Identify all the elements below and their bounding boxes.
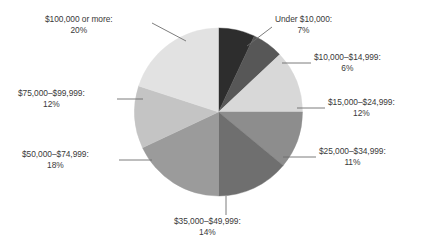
callout-75000-99999: $75,000–$99,999: 12% (18, 88, 85, 110)
callout-percent-10000-14999: 6% (314, 63, 381, 74)
pie-chart-figure: Under $10,000: 7% $10,000–$14,999: 6% $1… (0, 0, 435, 249)
callout-10000-14999: $10,000–$14,999: 6% (314, 52, 381, 74)
callout-category-100000-or-more: $100,000 or more (45, 14, 110, 24)
callout-15000-24999: $15,000–$24,999: 12% (328, 97, 395, 119)
callout-50000-74999: $50,000–$74,999: 18% (22, 149, 89, 171)
leader-line-100000-or-more (152, 23, 186, 41)
callout-category-under-10000: Under $10,000 (275, 14, 330, 24)
callout-percent-25000-34999: 11% (319, 157, 386, 168)
callout-25000-34999: $25,000–$34,999: 11% (319, 146, 386, 168)
callout-100000-or-more: $100,000 or more: 20% (45, 14, 113, 36)
callout-category-10000-14999: $10,000–$14,999 (314, 52, 378, 62)
callout-percent-100000-or-more: 20% (45, 25, 113, 36)
callout-category-50000-74999: $50,000–$74,999 (22, 149, 86, 159)
callout-percent-35000-49999: 14% (174, 227, 241, 238)
callout-category-25000-34999: $25,000–$34,999 (319, 146, 383, 156)
callout-percent-under-10000: 7% (275, 25, 332, 36)
callout-category-15000-24999: $15,000–$24,999 (328, 97, 392, 107)
pie-slice-group (134, 28, 302, 196)
pie-chart-graphic (0, 0, 435, 249)
callout-percent-50000-74999: 18% (22, 160, 89, 171)
callout-35000-49999: $35,000–$49,999: 14% (174, 216, 241, 238)
callout-percent-75000-99999: 12% (18, 99, 85, 110)
callout-under-10000: Under $10,000: 7% (275, 14, 332, 36)
callout-percent-15000-24999: 12% (328, 108, 395, 119)
callout-category-75000-99999: $75,000–$99,999 (18, 88, 82, 98)
callout-category-35000-49999: $35,000–$49,999 (174, 216, 238, 226)
